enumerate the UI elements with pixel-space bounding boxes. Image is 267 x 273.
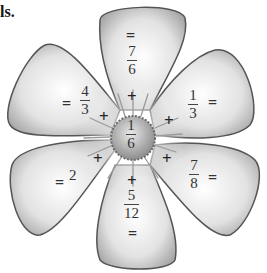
petal-upper-right-fraction: 1 3 bbox=[188, 88, 198, 121]
plus-sign-lower-left: + bbox=[93, 150, 103, 167]
equals-sign-lower-right: = bbox=[208, 170, 217, 186]
equals-sign-upper-left: = bbox=[62, 96, 71, 112]
center-denominator: 6 bbox=[127, 136, 135, 151]
plus-sign-upper-left: + bbox=[99, 108, 109, 125]
equals-sign-lower-left: = bbox=[55, 175, 64, 191]
petal-upper-left-fraction: 4 3 bbox=[80, 84, 90, 117]
equals-sign-bottom: = bbox=[128, 226, 137, 242]
petal-bottom-fraction: 5 12 bbox=[124, 188, 139, 221]
plus-sign-upper-right: + bbox=[164, 112, 174, 129]
petal-top-fraction: 7 6 bbox=[127, 44, 137, 77]
equals-sign-top: = bbox=[126, 28, 135, 44]
petal-lower-right-fraction: 7 8 bbox=[189, 158, 199, 191]
center-fraction: 1 6 bbox=[126, 118, 136, 151]
plus-sign-lower-right: + bbox=[162, 150, 172, 167]
plus-sign-top: + bbox=[127, 88, 137, 105]
center-numerator: 1 bbox=[126, 118, 136, 133]
equals-sign-upper-right: = bbox=[208, 95, 217, 111]
petal-lower-left-value: 2 bbox=[69, 168, 77, 183]
